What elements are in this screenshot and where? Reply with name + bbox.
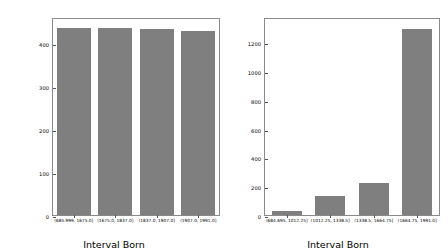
x-tick-label: (1664.75, 1991.0] xyxy=(396,218,438,223)
x-tick-mark xyxy=(115,215,116,218)
bar xyxy=(402,29,432,215)
x-tick-mark xyxy=(417,215,418,218)
plot-area-right: (684.695, 1012.25](1012.25, 1338.5](1338… xyxy=(264,18,440,216)
x-tick-label: (1012.25, 1338.5] xyxy=(309,218,351,223)
x-tick-mark xyxy=(330,215,331,218)
x-tick-label: (684.695, 1012.25] xyxy=(266,218,308,223)
y-tick-label: 600 xyxy=(251,128,265,134)
x-tick-labels-right: (684.695, 1012.25](1012.25, 1338.5](1338… xyxy=(265,215,439,223)
bar-series-right xyxy=(265,19,439,215)
bar xyxy=(140,29,174,215)
x-tick-label: (1338.5, 1664.75] xyxy=(353,218,395,223)
y-tick-label: 1000 xyxy=(248,70,265,76)
subplot-left: Number of people born in interval (685.9… xyxy=(0,0,228,252)
x-tick-label: (685.999, 1675.0] xyxy=(54,218,94,223)
y-tick-label: 200 xyxy=(251,185,265,191)
bar xyxy=(98,28,132,215)
y-tick-label: 400 xyxy=(39,42,53,48)
y-tick-label: 0 xyxy=(258,214,265,220)
subplot-right: (684.695, 1012.25](1012.25, 1338.5](1338… xyxy=(228,0,448,252)
x-tick-mark xyxy=(198,215,199,218)
y-tick-label: 100 xyxy=(39,171,53,177)
x-tick-label: (1837.0, 1907.0] xyxy=(137,218,177,223)
x-tick-label: (1907.0, 1991.0] xyxy=(178,218,218,223)
x-axis-label-left: Interval Born xyxy=(0,239,228,250)
bar-series-left xyxy=(53,19,219,215)
x-tick-label: (1675.0, 1837.0] xyxy=(95,218,135,223)
bar xyxy=(315,196,345,215)
figure: Number of people born in interval (685.9… xyxy=(0,0,448,252)
x-tick-mark xyxy=(287,215,288,218)
bar xyxy=(57,28,91,215)
x-tick-mark xyxy=(74,215,75,218)
x-tick-labels-left: (685.999, 1675.0](1675.0, 1837.0](1837.0… xyxy=(53,215,219,223)
y-tick-label: 0 xyxy=(46,214,53,220)
y-tick-label: 1200 xyxy=(248,41,265,47)
plot-area-left: (685.999, 1675.0](1675.0, 1837.0](1837.0… xyxy=(52,18,220,216)
x-tick-mark xyxy=(374,215,375,218)
y-tick-label: 800 xyxy=(251,99,265,105)
y-tick-label: 200 xyxy=(39,128,53,134)
y-tick-label: 400 xyxy=(251,156,265,162)
x-tick-mark xyxy=(157,215,158,218)
bar xyxy=(181,31,215,215)
x-axis-label-right: Interval Born xyxy=(228,239,448,250)
y-tick-label: 300 xyxy=(39,85,53,91)
bar xyxy=(359,183,389,215)
